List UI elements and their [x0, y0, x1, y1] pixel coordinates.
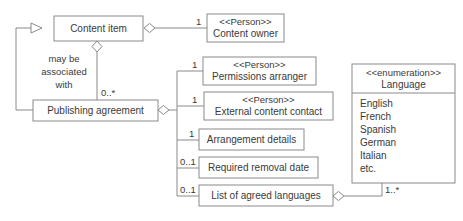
enum-item: French [360, 111, 391, 122]
aggregation-publishing-agreement-to-parts [158, 71, 204, 196]
class-box-language-enumeration[interactable]: <<enumeration>> Language English French … [352, 64, 455, 183]
multiplicity-external-content-contact: 1 [192, 94, 197, 105]
class-box-required-removal-date[interactable]: Required removal date [199, 157, 318, 178]
class-box-external-content-contact[interactable]: <<Person>> External content contact [204, 92, 333, 120]
multiplicity-content-item-publishing-agreement: 0..* [101, 87, 116, 98]
aggregation-diamond-icon [158, 106, 169, 115]
generalization-publishing-agreement-to-content-item [16, 23, 42, 110]
multiplicity-arrangement-details: 1 [189, 128, 194, 139]
class-name-permissions-arranger: Permissions arranger [212, 71, 308, 82]
class-box-content-item[interactable]: Content item [54, 16, 143, 41]
stereotype-content-owner: <<Person>> [219, 16, 272, 27]
multiplicity-language-enum: 1..* [385, 184, 400, 195]
class-name-required-removal-date: Required removal date [208, 162, 310, 173]
multiplicity-permissions-arranger: 1 [192, 59, 197, 70]
class-box-content-owner[interactable]: <<Person>> Content owner [207, 14, 284, 42]
multiplicity-required-removal-date: 0..1 [180, 156, 196, 167]
enum-item: German [360, 137, 396, 148]
stereotype-external-content-contact: <<Person>> [242, 94, 295, 105]
aggregation-languages-to-language-enum [333, 183, 382, 201]
association-label-line: may be [48, 53, 79, 64]
association-label-line: associated [41, 66, 86, 77]
enum-item: Italian [360, 150, 387, 161]
class-name-content-owner: Content owner [213, 28, 279, 39]
aggregation-diamond-icon [92, 41, 102, 52]
uml-class-diagram: Content item Publishing agreement <<Pers… [0, 0, 463, 221]
stereotype-permissions-arranger: <<Person>> [233, 59, 286, 70]
class-name-external-content-contact: External content contact [215, 106, 323, 117]
enum-item: etc. [360, 163, 376, 174]
class-name-arrangement-details: Arrangement details [207, 134, 297, 145]
diagram-canvas: Content item Publishing agreement <<Pers… [0, 0, 463, 221]
class-box-permissions-arranger[interactable]: <<Person>> Permissions arranger [203, 57, 316, 85]
stereotype-language-enum: <<enumeration>> [366, 67, 441, 78]
generalization-triangle-icon [31, 23, 42, 33]
aggregation-diamond-icon [144, 24, 155, 33]
class-name-content-item: Content item [70, 23, 127, 34]
class-box-arrangement-details[interactable]: Arrangement details [199, 129, 304, 150]
association-label-line: with [55, 79, 73, 90]
association-label-may-be-associated-with: may be associated with [41, 53, 86, 90]
aggregation-diamond-icon [333, 192, 344, 201]
enum-item: Spanish [360, 124, 396, 135]
class-box-list-of-agreed-languages[interactable]: List of agreed languages [199, 185, 333, 206]
class-name-list-of-agreed-languages: List of agreed languages [211, 190, 321, 201]
class-name-language-enum: Language [381, 79, 426, 90]
multiplicity-list-of-agreed-languages: 0..1 [180, 184, 196, 195]
class-name-publishing-agreement: Publishing agreement [47, 105, 144, 116]
class-box-publishing-agreement[interactable]: Publishing agreement [33, 100, 158, 121]
enum-item: English [360, 98, 393, 109]
multiplicity-content-owner: 1 [196, 16, 201, 27]
